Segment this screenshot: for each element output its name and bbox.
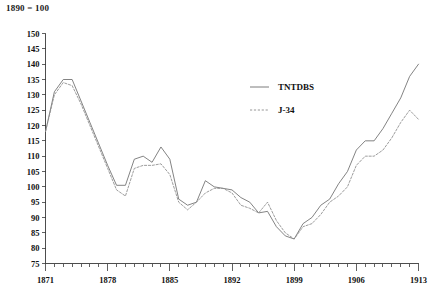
y-tick-label: 90: [31, 213, 40, 223]
chart-legend: TNTDBSJ-34: [250, 82, 314, 115]
y-tick-label: 145: [27, 44, 40, 54]
x-tick-label: 1913: [410, 275, 427, 285]
series-line-tntdbs: [46, 64, 419, 239]
y-tick-label: 120: [27, 121, 40, 131]
y-tick-label: 80: [31, 243, 40, 253]
y-tick-label: 95: [31, 197, 40, 207]
x-tick-label: 1892: [224, 275, 241, 285]
y-tick-label: 100: [27, 182, 40, 192]
y-tick-label: 125: [27, 105, 40, 115]
legend-label-tntdbs: TNTDBS: [278, 82, 314, 92]
y-tick-label: 140: [27, 59, 40, 69]
y-axis: 7580859095100105110115120125130135140145…: [27, 29, 46, 269]
chart-figure: 1890 = 100 75808590951001051101151201251…: [0, 0, 436, 306]
y-tick-label: 115: [27, 136, 39, 146]
y-tick-label: 110: [27, 151, 39, 161]
legend-label-j-34: J-34: [278, 105, 295, 115]
series-line-j-34: [46, 83, 419, 239]
y-tick-label: 85: [31, 228, 40, 238]
y-tick-label: 130: [27, 90, 40, 100]
y-tick-label: 135: [27, 75, 40, 85]
x-tick-label: 1906: [348, 275, 365, 285]
x-tick-label: 1885: [161, 275, 178, 285]
x-tick-label: 1871: [37, 275, 54, 285]
x-tick-label: 1878: [99, 275, 116, 285]
x-tick-label: 1899: [286, 275, 303, 285]
x-axis: 1871187818851892189919061913: [37, 264, 427, 285]
y-tick-label: 150: [27, 29, 40, 39]
y-tick-label: 75: [31, 259, 40, 269]
series-lines: [46, 64, 419, 239]
line-chart-canvas: 7580859095100105110115120125130135140145…: [0, 0, 436, 306]
y-tick-label: 105: [27, 167, 40, 177]
